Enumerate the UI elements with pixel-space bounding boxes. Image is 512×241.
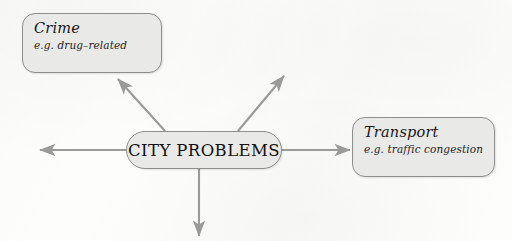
connector-to-crime	[118, 79, 165, 131]
central-topic-node[interactable]: CITY PROBLEMS	[126, 131, 282, 169]
topic-node-transport[interactable]: Transport e.g. traffic congestion	[352, 117, 495, 177]
topic-example-crime: e.g. drug–related	[34, 40, 161, 51]
connector-upper-right	[238, 76, 284, 131]
topic-example-transport: e.g. traffic congestion	[364, 144, 494, 155]
mind-map-diagram: Crime e.g. drug–related Transport e.g. t…	[0, 0, 512, 241]
topic-title-crime: Crime	[34, 21, 161, 36]
topic-title-transport: Transport	[364, 125, 494, 140]
topic-node-crime[interactable]: Crime e.g. drug–related	[22, 13, 162, 73]
central-topic-label: CITY PROBLEMS	[128, 141, 280, 160]
